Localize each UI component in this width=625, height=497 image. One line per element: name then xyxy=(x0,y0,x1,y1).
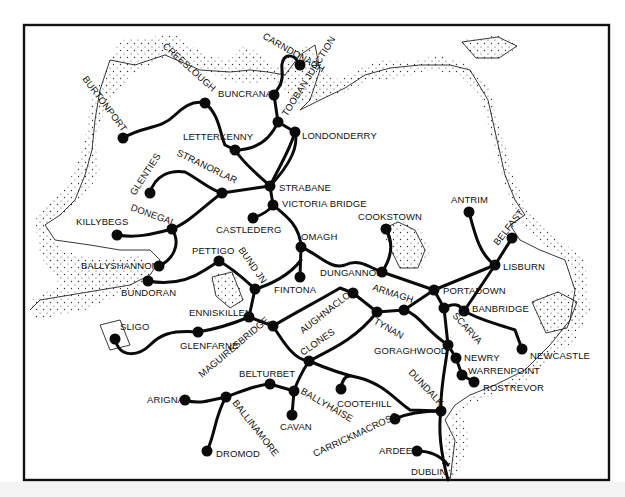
station-marker-ballyhaise[interactable] xyxy=(289,386,300,397)
station-marker-strabane[interactable] xyxy=(265,181,276,192)
label-belturbet: BELTURBET xyxy=(239,368,295,379)
station-marker-omagh[interactable] xyxy=(296,242,307,253)
station-marker-rostrevor[interactable] xyxy=(469,377,480,388)
station-marker-sligo[interactable] xyxy=(110,334,121,345)
label-fintona: FINTONA xyxy=(274,284,317,295)
label-enniskillen: ENNISKILLEN xyxy=(189,307,252,318)
bottom-band xyxy=(0,482,625,497)
station-marker-dromod[interactable] xyxy=(202,446,213,457)
label-portadown: PORTADOWN xyxy=(443,285,506,296)
label-dublin: DUBLIN ↓ xyxy=(411,466,454,477)
railway-map: CARNDONAGH BUNCRANA TOOBAN JUNCTION LOND… xyxy=(0,0,625,497)
label-antrim: ANTRIM xyxy=(451,194,488,205)
station-marker-newry[interactable] xyxy=(451,353,462,364)
label-newry: NEWRY xyxy=(464,352,500,363)
label-dromod: DROMOD xyxy=(216,448,260,459)
label-omagh: OMAGH xyxy=(301,231,337,242)
station-marker-bund-jn[interactable] xyxy=(250,284,261,295)
label-cootehill: COOTEHILL xyxy=(337,398,392,409)
label-lisburn: LISBURN xyxy=(503,261,545,272)
label-newcastle: NEWCASTLE xyxy=(530,350,590,361)
station-marker-pettigo[interactable] xyxy=(214,256,225,267)
station-marker-warrenpoint[interactable] xyxy=(457,370,468,381)
station-marker-clones[interactable] xyxy=(304,356,315,367)
station-marker-glenties[interactable] xyxy=(145,188,156,199)
station-marker-scarva[interactable] xyxy=(439,303,450,314)
label-castlederg: CASTLEDERG xyxy=(216,224,281,235)
label-arigna: ARIGNA xyxy=(147,394,185,405)
station-marker-cootehill[interactable] xyxy=(336,384,347,395)
label-ballyshannon: BALLYSHANNON xyxy=(81,260,159,271)
station-marker-cavan[interactable] xyxy=(287,410,298,421)
station-marker-ardee[interactable] xyxy=(412,446,423,457)
station-marker-armagh[interactable] xyxy=(399,305,410,316)
station-marker-tooban-junction[interactable] xyxy=(273,117,284,128)
station-marker-victoria-bridge[interactable] xyxy=(268,200,279,211)
station-marker-bundoran[interactable] xyxy=(143,276,154,287)
label-dungannon: DUNGANNON xyxy=(320,267,383,278)
station-marker-glenfarne[interactable] xyxy=(193,327,204,338)
station-marker-letterkenny[interactable] xyxy=(230,145,241,156)
station-marker-lisburn[interactable] xyxy=(490,260,501,271)
label-goraghwood: GORAGHWOOD xyxy=(374,345,448,356)
label-warrenpoint: WARRENPOINT xyxy=(468,365,540,376)
station-marker-londonderry[interactable] xyxy=(290,127,301,138)
label-cavan: CAVAN xyxy=(280,421,312,432)
label-ardee: ARDEE xyxy=(379,445,412,456)
station-marker-portadown[interactable] xyxy=(429,285,440,296)
station-marker-castlederg[interactable] xyxy=(248,213,259,224)
label-pettigo: PETTIGO xyxy=(192,245,234,256)
label-buncrana: BUNCRANA xyxy=(218,88,273,99)
label-glenfarne: GLENFARNE xyxy=(180,340,238,351)
station-marker-belturbet[interactable] xyxy=(265,379,276,390)
station-marker-antrim[interactable] xyxy=(464,207,475,218)
station-marker-ballinamore[interactable] xyxy=(221,392,232,403)
label-banbridge: BANBRIDGE xyxy=(472,303,529,314)
station-marker-fintona[interactable] xyxy=(295,272,306,283)
label-bundoran: BUNDORAN xyxy=(121,287,176,298)
label-sligo: SLIGO xyxy=(120,321,150,332)
station-marker-killybegs[interactable] xyxy=(112,230,123,241)
station-marker-stranorlar[interactable] xyxy=(217,188,228,199)
label-cookstown: COOKSTOWN xyxy=(358,211,422,222)
label-rostrevor: ROSTREVOR xyxy=(483,382,544,393)
station-marker-burtonport[interactable] xyxy=(118,133,129,144)
station-marker-creeslough[interactable] xyxy=(200,98,211,109)
label-strabane: STRABANE xyxy=(279,182,331,193)
label-victoria-bridge: VICTORIA BRIDGE xyxy=(282,198,367,209)
label-killybegs: KILLYBEGS xyxy=(76,216,128,227)
label-londonderry: LONDONDERRY xyxy=(302,130,377,141)
station-marker-newcastle[interactable] xyxy=(517,344,528,355)
station-marker-cookstown[interactable] xyxy=(381,224,392,235)
label-letterkenny: LETTERKENNY xyxy=(183,131,254,142)
